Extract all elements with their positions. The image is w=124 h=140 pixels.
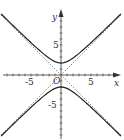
x-tick-label-neg5: -5 bbox=[25, 77, 34, 87]
y-tick-label-neg5: -5 bbox=[48, 100, 57, 110]
x-tick-label-5: 5 bbox=[88, 77, 94, 87]
x-axis-arrow-icon bbox=[113, 73, 121, 78]
x-axis-label: x bbox=[114, 78, 119, 88]
y-axis-arrow-icon bbox=[59, 9, 64, 17]
y-tick-label-5: 5 bbox=[53, 40, 59, 50]
hyperbola-chart: y x O -5 5 5 -5 bbox=[0, 0, 124, 140]
y-axis-label: y bbox=[51, 12, 58, 22]
origin-label: O bbox=[53, 76, 61, 86]
axis-labels: y x O -5 5 5 -5 bbox=[25, 12, 119, 110]
